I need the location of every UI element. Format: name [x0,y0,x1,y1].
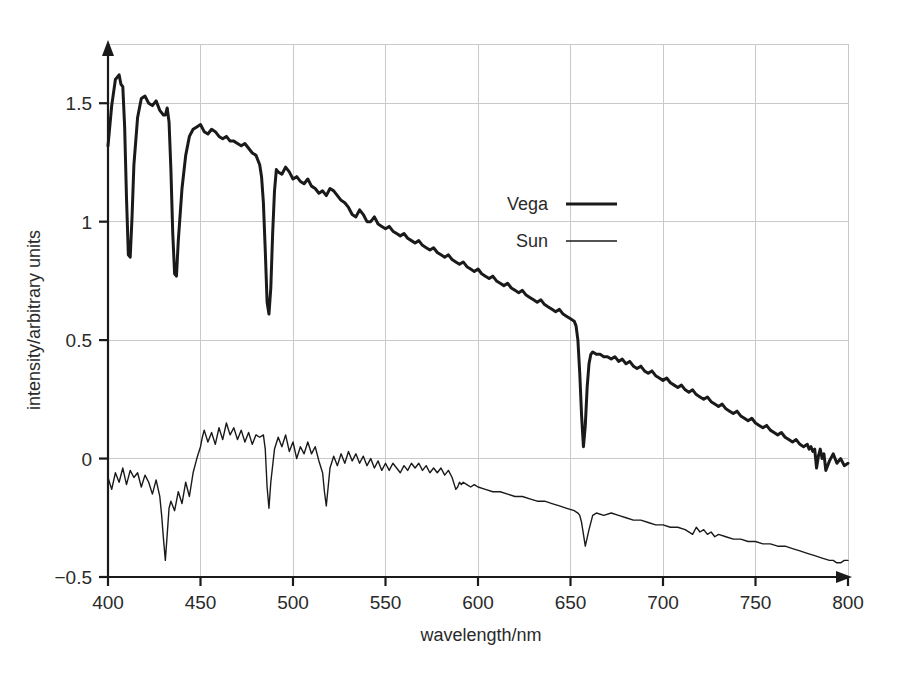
y-tick-label: 1.5 [66,93,92,114]
y-tick-label: −0.5 [54,567,92,588]
axes [99,40,852,586]
x-axis-arrowhead [836,571,852,583]
spectrum-chart: 400450500550600650700750800−0.500.511.5 … [0,0,898,678]
tick-labels: 400450500550600650700750800−0.500.511.5 [54,93,863,613]
x-tick-label: 700 [647,592,679,613]
x-tick-label: 400 [92,592,124,613]
y-axis-title: intensity/arbitrary units [24,230,44,410]
y-axis-arrowhead [102,40,114,56]
spectrum-plot-area: 400450500550600650700750800−0.500.511.5 … [0,0,898,678]
x-tick-label: 800 [832,592,864,613]
x-tick-label: 450 [185,592,217,613]
x-tick-label: 550 [370,592,402,613]
legend-label-vega: Vega [507,194,549,214]
y-tick-label: 0 [81,449,92,470]
gridlines [108,44,848,577]
x-tick-label: 750 [740,592,772,613]
x-tick-label: 650 [555,592,587,613]
chart-legend: VegaSun [507,194,617,251]
y-tick-label: 1 [81,212,92,233]
legend-label-sun: Sun [516,231,548,251]
y-tick-label: 0.5 [66,330,92,351]
x-tick-label: 600 [462,592,494,613]
x-axis-title: wavelength/nm [419,625,541,645]
x-tick-label: 500 [277,592,309,613]
